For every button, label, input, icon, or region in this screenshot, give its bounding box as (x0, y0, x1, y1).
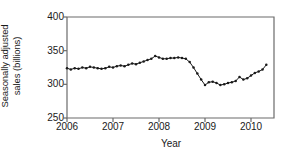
data-point (242, 78, 245, 81)
x-axis-tick-labels: 20062007200820092010 (0, 121, 286, 135)
x-axis-tick-label: 2006 (47, 121, 87, 132)
data-point (165, 58, 168, 61)
data-point (188, 61, 191, 64)
data-point (127, 64, 130, 67)
data-point (181, 57, 184, 60)
data-point (223, 83, 226, 86)
plot-area (0, 0, 286, 159)
chart-figure: Seasonally adjusted sales (billions) 250… (0, 0, 286, 159)
x-axis-tick-label: 2010 (231, 121, 271, 132)
data-point (85, 67, 88, 70)
data-point (70, 68, 73, 71)
data-point (89, 66, 92, 69)
data-point (234, 80, 237, 83)
data-point (131, 62, 134, 65)
data-point (204, 84, 207, 87)
data-point (219, 84, 222, 87)
x-axis-tick-label: 2007 (93, 121, 133, 132)
data-point (104, 67, 107, 70)
data-point (77, 68, 80, 71)
x-axis-title: Year (67, 138, 275, 149)
data-point (208, 81, 211, 84)
data-point (116, 65, 119, 68)
data-point (254, 72, 257, 75)
data-point (265, 64, 268, 67)
data-point (169, 57, 172, 60)
x-axis-tick-label: 2008 (139, 121, 179, 132)
data-point (150, 58, 153, 61)
data-point (231, 81, 234, 84)
data-point (73, 67, 76, 70)
data-point (96, 67, 99, 70)
data-point (257, 70, 260, 73)
data-point (227, 82, 230, 85)
data-point (142, 60, 145, 63)
data-point (119, 64, 122, 67)
data-point (211, 80, 214, 83)
data-point (112, 66, 115, 69)
data-point (154, 55, 157, 58)
data-point (173, 57, 176, 60)
data-point (215, 82, 218, 85)
data-point (81, 66, 84, 69)
data-point (246, 77, 249, 80)
data-point (158, 56, 161, 59)
data-point (162, 58, 165, 61)
data-point (146, 59, 149, 62)
x-axis-tick-label: 2009 (185, 121, 225, 132)
data-point (123, 65, 126, 68)
data-point (196, 72, 199, 75)
data-series-markers (66, 55, 268, 86)
data-point (66, 67, 69, 70)
data-point (238, 76, 241, 79)
data-point (177, 56, 180, 59)
data-point (100, 68, 103, 71)
data-point (200, 78, 203, 81)
data-point (139, 62, 142, 65)
data-point (108, 66, 111, 69)
data-point (250, 74, 253, 77)
data-point (93, 66, 96, 69)
data-point (185, 58, 188, 61)
data-point (261, 68, 264, 71)
data-point (192, 66, 195, 69)
data-point (135, 63, 138, 66)
